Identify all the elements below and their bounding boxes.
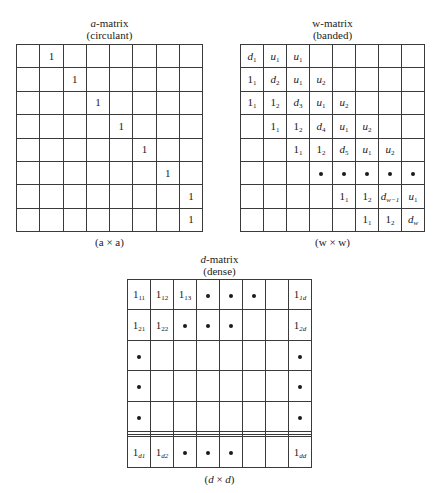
ellipsis-dot-icon	[388, 172, 392, 176]
matrix-cell: 11	[264, 115, 287, 138]
matrix-cell	[110, 138, 133, 161]
matrix-cell: u2	[310, 68, 333, 91]
matrix-cell	[63, 185, 86, 208]
a-matrix-title: a-matrix (circulant)	[16, 17, 203, 41]
matrix-cell	[156, 185, 179, 208]
cell-subscript: 2	[322, 79, 326, 87]
matrix-cell	[264, 161, 287, 184]
matrix-row: 1	[17, 138, 203, 161]
matrix-cell	[110, 68, 133, 91]
cell-subscript: 1	[276, 126, 280, 134]
cell-subscript: 3	[299, 102, 303, 110]
matrix-cell	[17, 208, 40, 231]
matrix-cell	[17, 161, 40, 184]
matrix-row: 1	[17, 161, 203, 184]
cell-subscript: 1	[253, 56, 257, 64]
matrix-cell	[379, 161, 402, 184]
matrix-cell: 112	[151, 280, 174, 310]
matrix-row: 1112d4u1u2	[241, 115, 425, 138]
cell-subscript: d2	[161, 452, 168, 460]
w-matrix-grid: d1u1u111d2u1u21112d3u1u21112d4u1u21112d5…	[240, 44, 425, 232]
matrix-cell	[86, 138, 109, 161]
ellipsis-dot-icon	[183, 451, 187, 455]
matrix-row: d1u1u1	[241, 45, 425, 68]
matrix-cell: u1	[287, 68, 310, 91]
ellipsis-dot-icon	[229, 324, 233, 328]
a-matrix-grid: 11111111	[16, 44, 203, 232]
cell-subscript: 1	[368, 149, 372, 157]
cell-subscript: 22	[161, 325, 168, 333]
matrix-cell	[241, 185, 264, 208]
cell-subscript: 21	[138, 325, 145, 333]
matrix-cell	[197, 437, 220, 468]
cell-subscript: 2	[391, 149, 395, 157]
matrix-cell	[179, 91, 202, 114]
matrix-cell	[379, 68, 402, 91]
matrix-cell: u2	[379, 138, 402, 161]
matrix-cell: u1	[264, 45, 287, 68]
ellipsis-dot-icon	[206, 451, 210, 455]
matrix-cell	[86, 161, 109, 184]
matrix-cell	[266, 437, 289, 468]
ellipsis-dot-icon	[229, 451, 233, 455]
matrix-cell	[220, 371, 243, 401]
matrix-cell	[379, 115, 402, 138]
matrix-cell	[289, 401, 312, 431]
matrix-cell	[333, 45, 356, 68]
matrix-cell: d2	[264, 68, 287, 91]
matrix-cell	[86, 208, 109, 231]
matrix-cell	[243, 437, 266, 468]
matrix-cell	[310, 185, 333, 208]
matrix-cell	[17, 138, 40, 161]
w-matrix-title-rest: -matrix	[320, 17, 352, 29]
matrix-cell	[174, 310, 197, 340]
matrix-cell: u1	[333, 115, 356, 138]
cell-subscript: 1d	[299, 294, 306, 302]
cell-subscript: 1	[276, 56, 280, 64]
matrix-cell	[40, 185, 63, 208]
d-matrix-caption-times: ×	[214, 473, 226, 485]
matrix-row	[128, 340, 312, 370]
cell-subscript: 1	[345, 196, 349, 204]
matrix-cell	[197, 401, 220, 431]
d-matrix-caption: (d × d)	[127, 473, 312, 485]
ellipsis-dot-icon	[206, 294, 210, 298]
matrix-cell	[133, 208, 156, 231]
matrix-cell	[156, 115, 179, 138]
cell-subscript: 2	[322, 149, 326, 157]
matrix-cell	[63, 115, 86, 138]
matrix-cell: 1dd	[289, 437, 312, 468]
matrix-cell	[174, 340, 197, 370]
matrix-cell	[197, 310, 220, 340]
matrix-cell	[243, 340, 266, 370]
matrix-cell	[63, 138, 86, 161]
matrix-cell	[310, 45, 333, 68]
matrix-cell: 1d1	[128, 437, 151, 468]
cell-subscript: 1	[299, 79, 303, 87]
cell-subscript: 1	[253, 102, 257, 110]
matrix-cell	[243, 310, 266, 340]
matrix-cell	[220, 401, 243, 431]
matrix-cell	[174, 401, 197, 431]
cell-subscript: 12	[161, 294, 168, 302]
matrix-cell	[402, 68, 425, 91]
matrix-cell	[179, 115, 202, 138]
matrix-row	[128, 401, 312, 431]
matrix-cell: 11	[241, 68, 264, 91]
matrix-cell: u1	[287, 45, 310, 68]
matrix-cell	[174, 371, 197, 401]
matrix-cell	[40, 115, 63, 138]
matrix-cell	[241, 161, 264, 184]
cell-subscript: 2	[391, 219, 395, 227]
matrix-cell	[17, 91, 40, 114]
matrix-cell: 12	[310, 138, 333, 161]
cell-subscript: 1	[253, 79, 257, 87]
matrix-cell	[151, 371, 174, 401]
matrix-row: 1	[17, 208, 203, 231]
w-matrix-subtitle: (banded)	[240, 29, 425, 41]
matrix-cell	[40, 68, 63, 91]
matrix-cell	[266, 401, 289, 431]
matrix-cell	[40, 91, 63, 114]
cell-subscript: 5	[345, 149, 349, 157]
matrix-cell	[17, 45, 40, 68]
